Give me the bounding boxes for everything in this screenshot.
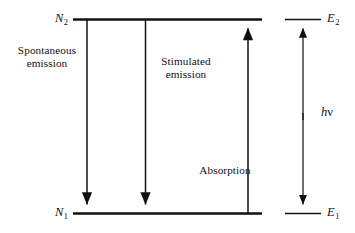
level-label-n1-subscript: 1 [64,211,68,221]
level-label-n2-symbol: N [55,11,64,25]
energy-label-e2-subscript: 2 [335,17,339,27]
energy-label-e2: E2 [327,11,339,26]
photon-energy-label: hν [321,105,333,120]
process-label-spontaneous-emission-line1: Spontaneous [6,44,88,57]
level-label-n1-symbol: N [55,205,64,219]
diagram-canvas [0,0,355,233]
energy-label-e2-symbol: E [327,11,335,25]
process-label-stimulated-emission: Stimulated emission [145,55,227,81]
process-label-spontaneous-emission: Spontaneous emission [6,44,88,70]
process-label-absorption: Absorption [185,164,265,177]
energy-label-e1-symbol: E [327,205,335,219]
level-label-n2-subscript: 2 [64,17,68,27]
energy-label-e1-subscript: 1 [335,211,339,221]
process-label-stimulated-emission-line2: emission [145,68,227,81]
process-label-absorption-line1: Absorption [185,164,265,177]
energy-level-diagram: N2 N1 E2 E1 Spontaneous emission Stimula… [0,0,355,233]
energy-label-e1: E1 [327,205,339,220]
process-label-stimulated-emission-line1: Stimulated [145,55,227,68]
level-label-n2: N2 [55,11,68,26]
level-label-n1: N1 [55,205,68,220]
photon-energy-symbol-nu: ν [327,105,333,119]
process-label-spontaneous-emission-line2: emission [6,57,88,70]
